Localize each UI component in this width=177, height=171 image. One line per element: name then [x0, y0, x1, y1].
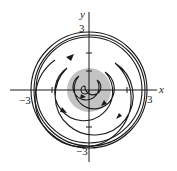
- arrow-icon: [116, 113, 122, 119]
- y-tick-label-bottom: −3: [76, 145, 88, 157]
- x-axis-label: x: [158, 83, 164, 95]
- x-tick-label-right: 3: [147, 93, 153, 105]
- arrow-icon: [60, 107, 67, 113]
- arrow-icon: [66, 54, 74, 61]
- y-tick-label-top: 3: [79, 22, 85, 34]
- phase-portrait-diagram: y 3 x 3 −3 −3: [0, 0, 177, 171]
- y-axis-label: y: [79, 8, 85, 20]
- x-tick-label-left: −3: [19, 94, 31, 106]
